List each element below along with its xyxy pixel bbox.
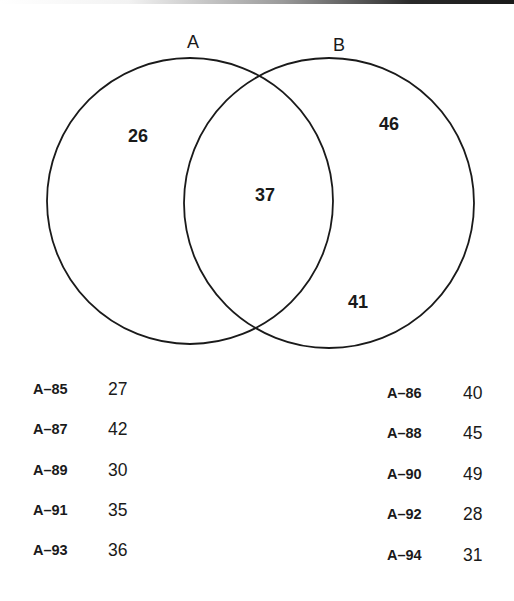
row-value: 31 (463, 544, 482, 566)
row-value: 28 (463, 503, 482, 525)
set-label-b: B (333, 36, 345, 54)
row-id: A–94 (387, 544, 422, 566)
row-value: 30 (108, 459, 127, 481)
row-value: 40 (463, 382, 482, 404)
circle-b (184, 58, 474, 348)
row-value: 35 (108, 499, 127, 521)
row-value: 27 (108, 378, 127, 400)
region-intersection-value: 37 (255, 186, 275, 204)
region-a-only-value: 26 (128, 127, 148, 145)
circle-a (47, 58, 333, 344)
row-value: 36 (108, 539, 127, 561)
row-value: 42 (108, 418, 127, 440)
value-table: A–85 27 A–87 42 A–89 30 A–91 35 A–93 36 … (0, 370, 514, 601)
row-id: A–87 (33, 418, 68, 440)
row-id: A–85 (33, 378, 68, 400)
row-id: A–90 (387, 463, 422, 485)
region-b-lower-value: 41 (348, 293, 368, 311)
row-id: A–89 (33, 459, 68, 481)
venn-diagram: A B 26 37 46 41 (0, 0, 514, 370)
region-b-only-value: 46 (379, 115, 399, 133)
row-value: 45 (463, 422, 482, 444)
row-id: A–91 (33, 499, 68, 521)
set-label-a: A (187, 33, 199, 51)
row-id: A–93 (33, 539, 68, 561)
row-value: 49 (463, 463, 482, 485)
row-id: A–86 (387, 382, 422, 404)
row-id: A–88 (387, 422, 422, 444)
row-id: A–92 (387, 503, 422, 525)
